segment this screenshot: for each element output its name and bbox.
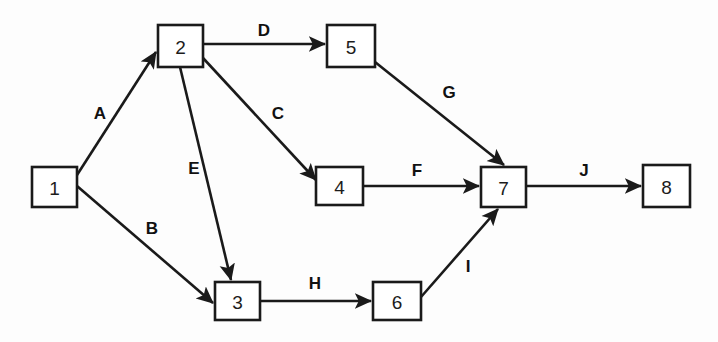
edge-label-B: B <box>146 219 158 238</box>
edge-2-to-4 <box>203 58 316 180</box>
edge-label-A: A <box>94 104 106 123</box>
node-1[interactable]: 1 <box>32 167 77 207</box>
node-8[interactable]: 8 <box>643 165 690 207</box>
network-graph: 12345678 ABCDEFGHIJ <box>0 0 718 342</box>
node-label-7: 7 <box>498 178 509 199</box>
edge-label-E: E <box>188 159 199 178</box>
node-label-3: 3 <box>232 292 243 313</box>
node-6[interactable]: 6 <box>373 282 421 320</box>
node-label-4: 4 <box>334 177 345 198</box>
edge-1-to-3 <box>77 186 213 303</box>
edge-label-F: F <box>412 161 422 180</box>
node-label-2: 2 <box>175 37 186 58</box>
node-7[interactable]: 7 <box>481 167 526 207</box>
diagram-canvas: 12345678 ABCDEFGHIJ <box>0 0 718 342</box>
node-label-6: 6 <box>392 292 403 313</box>
edge-label-I: I <box>466 257 471 276</box>
edge-1-to-2 <box>77 52 156 175</box>
node-2[interactable]: 2 <box>158 25 203 67</box>
edge-5-to-7 <box>375 62 504 165</box>
node-5[interactable]: 5 <box>327 25 375 67</box>
edge-label-C: C <box>272 104 284 123</box>
edge-label-H: H <box>309 274 321 293</box>
nodes-layer: 12345678 <box>32 25 690 320</box>
edge-label-G: G <box>442 83 455 102</box>
node-label-1: 1 <box>49 178 60 199</box>
node-4[interactable]: 4 <box>316 167 363 205</box>
edge-label-J: J <box>579 161 588 180</box>
edge-6-to-7 <box>421 209 498 297</box>
node-label-8: 8 <box>661 177 672 198</box>
edge-label-D: D <box>258 21 270 40</box>
node-label-5: 5 <box>346 37 357 58</box>
node-3[interactable]: 3 <box>215 282 260 320</box>
